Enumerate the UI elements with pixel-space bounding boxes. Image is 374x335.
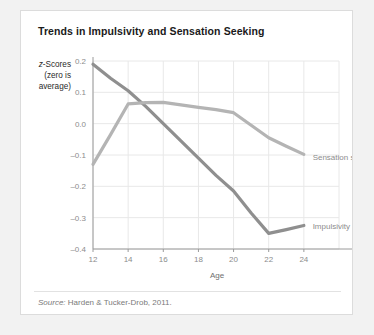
series-labels-group: ImpulsivitySensation seeking — [313, 153, 353, 231]
source-note: Source: Harden & Tucker-Drob, 2011. — [38, 298, 172, 307]
y-tick-label: –0.2 — [70, 182, 86, 191]
y-axis-title-line: average) — [39, 82, 72, 91]
y-axis-title: z-Scores(zero isaverage) — [38, 60, 72, 91]
x-tick-label: 22 — [264, 255, 273, 264]
page-title: Trends in Impulsivity and Sensation Seek… — [38, 25, 265, 37]
x-tick-label: 18 — [194, 255, 203, 264]
x-axis-tick-labels: 12141618202224 — [89, 255, 309, 264]
source-citation: Harden & Tucker-Drob, 2011. — [66, 298, 172, 307]
x-tick-label: 12 — [89, 255, 98, 264]
y-axis-title-line: (zero is — [44, 71, 71, 80]
chart-plot-area: 0.20.10.0–0.1–0.2–0.3–0.4 12141618202224… — [21, 53, 353, 285]
y-tick-label: –0.3 — [70, 214, 86, 223]
x-axis-title: Age — [210, 271, 225, 280]
y-tick-label: –0.1 — [70, 151, 86, 160]
x-tick-label: 24 — [299, 255, 308, 264]
x-tick-label: 16 — [159, 255, 168, 264]
y-axis-tick-labels: 0.20.10.0–0.1–0.2–0.3–0.4 — [70, 57, 86, 254]
series-label-sensation-seeking: Sensation seeking — [313, 153, 353, 162]
y-tick-label: 0.0 — [75, 120, 87, 129]
source-label: Source: — [38, 298, 66, 307]
series-label-impulsivity: Impulsivity — [313, 222, 350, 231]
chart-card: Trends in Impulsivity and Sensation Seek… — [20, 10, 353, 315]
y-tick-label: 0.1 — [75, 88, 87, 97]
x-tick-label: 20 — [229, 255, 238, 264]
line-chart: 0.20.10.0–0.1–0.2–0.3–0.4 12141618202224… — [21, 53, 353, 285]
y-tick-label: –0.4 — [70, 245, 86, 254]
footer-divider — [34, 291, 341, 292]
x-tick-label: 14 — [124, 255, 133, 264]
y-axis-title-line: z-Scores — [38, 60, 71, 69]
y-tick-label: 0.2 — [75, 57, 87, 66]
